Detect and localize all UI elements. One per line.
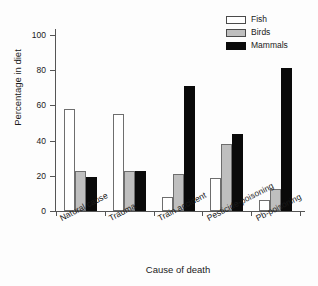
legend-item: Fish bbox=[226, 14, 314, 25]
x-tick-mark bbox=[202, 211, 203, 216]
bar-mammals bbox=[184, 86, 195, 211]
x-tick-mark bbox=[251, 211, 252, 216]
y-tick-label: 100 bbox=[0, 31, 46, 39]
bar-mammals bbox=[135, 171, 146, 211]
bar-group bbox=[64, 35, 97, 211]
y-tick-label: 20 bbox=[0, 172, 46, 180]
y-tick-mark bbox=[50, 70, 55, 71]
bar-chart-figure: 020406080100 Natural causeTraumaTrain ac… bbox=[0, 0, 318, 286]
y-tick-label: 80 bbox=[0, 66, 46, 74]
y-tick-mark bbox=[50, 141, 55, 142]
x-tick-mark bbox=[300, 211, 301, 216]
legend-swatch-fish bbox=[226, 16, 246, 24]
x-tick-mark bbox=[154, 211, 155, 216]
y-tick-mark bbox=[50, 176, 55, 177]
legend-label: Mammals bbox=[251, 41, 288, 50]
bar-fish bbox=[113, 114, 124, 211]
bar-mammals bbox=[281, 68, 292, 211]
bar-group bbox=[113, 35, 146, 211]
y-tick-label: 40 bbox=[0, 137, 46, 145]
bar-group bbox=[162, 35, 195, 211]
legend-item: Birds bbox=[226, 27, 314, 38]
y-tick-label: 60 bbox=[0, 101, 46, 109]
y-tick-mark bbox=[50, 105, 55, 106]
legend-swatch-birds bbox=[226, 29, 246, 37]
legend-swatch-mammals bbox=[226, 42, 246, 50]
chart-legend: FishBirdsMammals bbox=[226, 14, 314, 53]
legend-label: Fish bbox=[251, 15, 267, 24]
y-axis-title: Percentage in diet bbox=[12, 13, 23, 163]
x-tick-mark bbox=[105, 211, 106, 216]
bar-group bbox=[210, 35, 243, 211]
bar-fish bbox=[64, 109, 75, 211]
y-tick-mark bbox=[50, 35, 55, 36]
legend-label: Birds bbox=[251, 28, 270, 37]
y-tick-label: 0 bbox=[0, 207, 46, 215]
legend-item: Mammals bbox=[226, 40, 314, 51]
x-axis-title: Cause of death bbox=[56, 264, 300, 275]
y-tick-mark bbox=[50, 211, 55, 212]
